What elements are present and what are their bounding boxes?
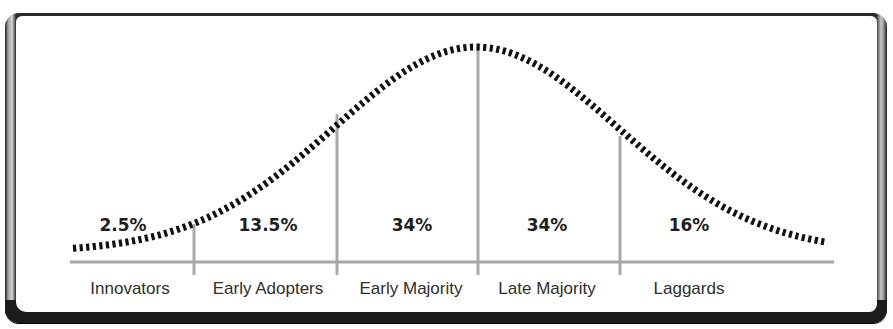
percent-innovators: 2.5% bbox=[99, 215, 146, 235]
label-laggards: Laggards bbox=[654, 279, 725, 299]
label-innovators: Innovators bbox=[90, 279, 169, 299]
label-early-adopters: Early Adopters bbox=[213, 279, 324, 299]
percent-early-adopters: 13.5% bbox=[239, 215, 298, 235]
bell-curve bbox=[73, 47, 827, 248]
label-late-majority: Late Majority bbox=[498, 279, 595, 299]
label-early-majority: Early Majority bbox=[360, 279, 463, 299]
percent-early-majority: 34% bbox=[392, 215, 433, 235]
percent-late-majority: 34% bbox=[527, 215, 568, 235]
percent-laggards: 16% bbox=[669, 215, 710, 235]
